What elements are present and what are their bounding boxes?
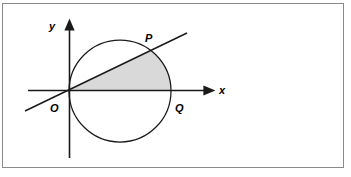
- point-q-label: Q: [175, 102, 184, 114]
- origin-label: O: [50, 102, 59, 114]
- figure-root: y x O P Q: [0, 0, 351, 177]
- point-p-label: P: [145, 32, 153, 44]
- x-axis-label: x: [218, 84, 226, 96]
- y-axis-label: y: [48, 20, 56, 32]
- geometry-diagram: y x O P Q: [0, 0, 351, 177]
